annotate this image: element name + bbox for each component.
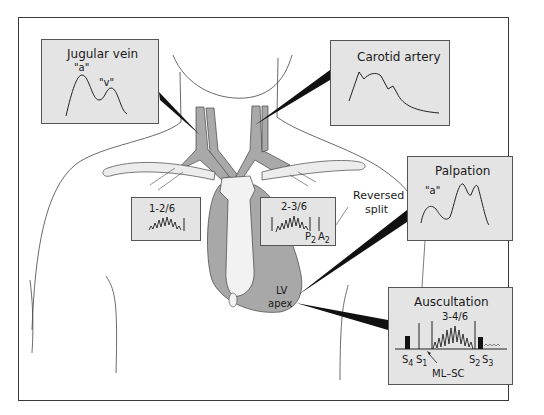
s4-label: S4 bbox=[402, 355, 413, 365]
reversed-split-label-line2: split bbox=[365, 204, 388, 215]
jugular-waveform bbox=[42, 40, 160, 125]
lv-apex-label-line2: apex bbox=[268, 299, 292, 309]
carotid-waveform bbox=[331, 41, 451, 127]
ml-sc-label: ML–SC bbox=[432, 369, 465, 379]
carotid-artery-panel: Carotid artery bbox=[330, 40, 450, 126]
s2-label: S2 bbox=[469, 355, 480, 365]
auscultation-panel: Auscultation 3-4/6 S4 S1 S2 S3 ML–SC bbox=[388, 287, 513, 385]
a2-label: A2 bbox=[318, 232, 330, 242]
reversed-split-label-line1: Reversed bbox=[353, 190, 404, 201]
p2-label: P2 bbox=[305, 232, 316, 242]
palpation-waveform bbox=[408, 157, 514, 242]
jugular-vein-panel: Jugular vein "a" "v" bbox=[41, 39, 159, 124]
s1-label: S1 bbox=[416, 355, 427, 365]
palpation-panel: Palpation "a" bbox=[407, 156, 513, 241]
s3-label: S3 bbox=[482, 355, 493, 365]
lv-apex-label-line1: LV bbox=[276, 286, 287, 296]
murmur-box-left: 1-2/6 bbox=[131, 197, 201, 241]
murmur-waveform-left bbox=[132, 198, 202, 242]
murmur-box-right: 2-3/6 P2 A2 bbox=[260, 197, 336, 246]
